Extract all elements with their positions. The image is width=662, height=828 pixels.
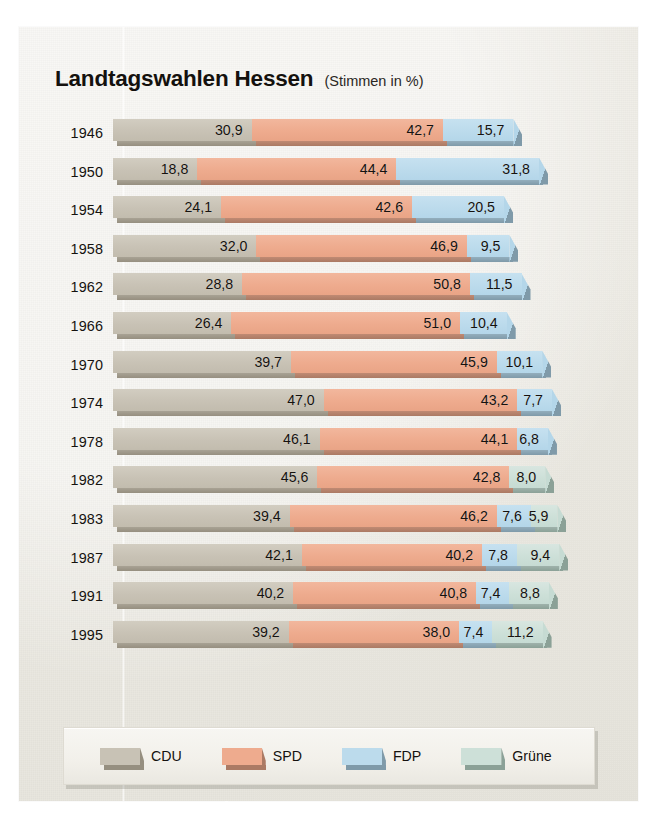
bar-end-chamfer [548,428,557,455]
segment-value: 30,9 [215,122,252,138]
bar-segment-cdu: 47,0 [113,389,324,411]
row-year-label: 1995 [41,627,103,643]
segment-value: 40,8 [440,585,477,601]
bar-segment-cdu: 42,1 [113,544,302,566]
legend-label: FDP [393,748,421,764]
segment-value: 7,4 [481,585,510,601]
row-year-label: 1958 [41,241,103,257]
row-year-label: 1962 [41,279,103,295]
row-year-label: 1946 [41,125,103,141]
bar-segment-spd: 38,0 [289,621,459,643]
legend-swatch-cdu [100,748,140,765]
bar-segment-cdu: 28,8 [113,273,242,295]
bar-segment-fdp: 15,7 [443,119,513,141]
chart-legend: CDUSPDFDPGrüne [63,727,595,785]
row-year-label: 1987 [41,550,103,566]
chart-page: Landtagswahlen Hessen (Stimmen in %) 194… [19,27,638,801]
segment-value: 42,6 [375,199,412,215]
segment-value: 6,8 [519,431,548,447]
segment-value: 40,2 [445,547,482,563]
page-title: Landtagswahlen Hessen [55,66,313,92]
legend-label: CDU [151,748,182,764]
segment-value: 32,0 [220,238,257,254]
chart-row: 194630,942,715,7 [19,115,638,154]
bar-segment-cdu: 24,1 [113,196,221,218]
bar-segment-cdu: 40,2 [113,582,293,604]
bar-end-chamfer [504,196,513,223]
bar-end-chamfer [557,505,566,532]
row-year-label: 1983 [41,511,103,527]
row-year-label: 1950 [41,164,103,180]
bar-segment-gru: 8,8 [509,582,548,604]
bar-end-chamfer [509,235,518,262]
bar-segment-spd: 42,7 [252,119,443,141]
bar-segment-cdu: 46,1 [113,428,320,450]
segment-value: 39,7 [254,354,291,370]
bar-segment-fdp: 9,5 [467,235,510,257]
legend-item-spd: SPD [222,748,302,765]
bar-segment-cdu: 45,6 [113,466,317,488]
legend-swatch-fdp [342,748,382,765]
bar-end-chamfer [539,158,548,185]
legend-label: Grüne [512,748,551,764]
chart-row: 195424,142,620,5 [19,192,638,231]
segment-value: 46,9 [430,238,467,254]
segment-value: 28,8 [206,276,243,292]
bar-end-chamfer [543,621,552,648]
bar-end-chamfer [507,312,516,339]
row-year-label: 1978 [41,434,103,450]
segment-value: 15,7 [477,122,514,138]
bar-segment-spd: 44,4 [197,158,396,180]
segment-value: 11,5 [486,276,522,292]
bar-segment-fdp: 7,7 [517,389,552,411]
chart-subtitle: (Stimmen in %) [324,73,423,89]
bar-segment-spd: 40,2 [302,544,482,566]
bar-segment-fdp: 7,8 [482,544,517,566]
bar-segment-gru: 11,2 [492,621,542,643]
bar-segment-cdu: 39,4 [113,505,290,527]
segment-value: 44,1 [481,431,518,447]
bar-end-chamfer [549,582,558,609]
bar-segment-gru: 8,0 [509,466,545,488]
bar-segment-cdu: 39,7 [113,351,291,373]
segment-value: 39,2 [252,624,289,640]
bar-segment-fdp: 7,6 [497,505,531,527]
segment-value: 40,2 [257,585,294,601]
bar-segment-fdp: 7,4 [459,621,492,643]
bar-segment-fdp: 31,8 [396,158,539,180]
legend-item-fdp: FDP [342,748,421,765]
segment-value: 7,7 [523,392,552,408]
segment-value: 47,0 [287,392,324,408]
segment-value: 20,5 [467,199,504,215]
bar-segment-fdp: 10,1 [497,351,542,373]
segment-value: 42,7 [406,122,443,138]
bar-segment-cdu: 32,0 [113,235,256,257]
bar-segment-spd: 45,9 [291,351,497,373]
legend-item-cdu: CDU [100,748,182,765]
segment-value: 31,8 [502,161,539,177]
segment-value: 44,4 [360,161,397,177]
segment-value: 8,8 [520,585,549,601]
chart-header: Landtagswahlen Hessen (Stimmen in %) [55,66,615,92]
bar-segment-spd: 42,8 [317,466,509,488]
segment-value: 42,8 [473,469,510,485]
chart-row: 197846,144,16,8 [19,424,638,463]
segment-value: 11,2 [507,624,543,640]
bar-segment-spd: 42,6 [221,196,412,218]
chart-row: 197039,745,910,1 [19,347,638,386]
segment-value: 7,4 [464,624,493,640]
chart-row: 196228,850,811,5 [19,269,638,308]
segment-value: 50,8 [433,276,470,292]
segment-value: 26,4 [195,315,232,331]
legend-item-gru: Grüne [461,748,551,765]
legend-label: SPD [273,748,302,764]
bar-segment-spd: 51,0 [231,312,460,334]
segment-value: 8,0 [517,469,546,485]
segment-value: 38,0 [423,624,460,640]
segment-value: 51,0 [423,315,460,331]
bar-end-chamfer [545,466,554,493]
row-year-label: 1954 [41,202,103,218]
bar-segment-spd: 50,8 [242,273,470,295]
bar-end-chamfer [522,273,531,300]
segment-value: 18,8 [161,161,198,177]
